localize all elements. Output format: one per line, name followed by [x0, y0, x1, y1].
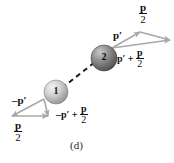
fraction-numerator: p: [139, 2, 147, 13]
collision-axis-dashed-line: [62, 62, 95, 88]
vector-sum-lower: [44, 99, 48, 116]
label-sum-lower: –p′ + p 2: [56, 104, 88, 125]
fraction-p-over-2-top: p 2: [139, 2, 147, 25]
momentum-vector-diagram: 1 2 p 2 p′ p′ + p 2 –p′ –p′ + p 2 p: [0, 0, 174, 163]
fraction-numerator: p: [136, 48, 144, 58]
vector-diagram-canvas: [0, 0, 174, 163]
figure-caption: (d): [70, 140, 83, 151]
fraction-numerator: p: [80, 104, 88, 114]
label-sum-upper: p′ + p 2: [117, 48, 144, 69]
vector-p-half-upper: [140, 32, 170, 40]
ball-two-label: 2: [95, 52, 113, 62]
label-neg-p-prime: –p′: [12, 95, 27, 106]
fraction-p-over-2-bottom: p 2: [14, 120, 22, 143]
fraction-denominator: 2: [136, 59, 144, 69]
fraction-p-over-2-upper-sum: p 2: [136, 48, 144, 69]
sum-lower-prefix: –p′ +: [56, 110, 78, 120]
fraction-denominator: 2: [139, 14, 147, 25]
fraction-numerator: p: [14, 120, 22, 131]
fraction-denominator: 2: [80, 115, 88, 125]
label-p-prime-upper: p′: [113, 30, 122, 41]
label-p-half-bottom: p 2: [14, 121, 22, 144]
sum-upper-prefix: p′ +: [117, 54, 134, 64]
label-p-half-top: p 2: [139, 3, 147, 26]
fraction-denominator: 2: [14, 132, 22, 143]
fraction-p-over-2-lower-sum: p 2: [80, 104, 88, 125]
ball-one-label: 1: [47, 86, 65, 96]
